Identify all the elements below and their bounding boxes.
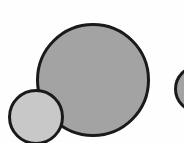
diagram-canvas	[0, 0, 184, 143]
partial-right-circle	[174, 65, 184, 113]
small-circle	[8, 89, 64, 143]
